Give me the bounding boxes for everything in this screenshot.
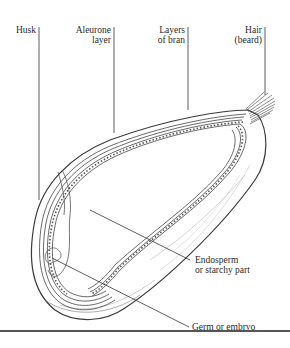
- germ-leader: [52, 258, 189, 327]
- aleurone-label-line-2: layer: [62, 35, 111, 45]
- aleurone-label-line-1: Aleurone: [62, 25, 111, 35]
- endosperm-leader: [90, 210, 190, 260]
- grain-outer-body: [32, 110, 266, 320]
- grain-illustration: [0, 0, 290, 348]
- endosperm-label-line-1: Endosperm: [195, 255, 250, 265]
- hair-label-line-2: (beard): [225, 35, 262, 45]
- husk-label-line-1: Husk: [4, 25, 36, 35]
- wheat-grain-diagram: Husk Aleurone layer Layers of bran Hair …: [0, 0, 290, 348]
- label-husk: Husk: [4, 25, 36, 35]
- label-hair-beard: Hair (beard): [225, 25, 262, 45]
- endosperm-label-line-2: or starchy part: [195, 265, 250, 275]
- bottom-divider: [0, 330, 290, 332]
- bran-label-line-2: of bran: [145, 35, 185, 45]
- label-aleurone-layer: Aleurone layer: [62, 25, 111, 45]
- label-layers-of-bran: Layers of bran: [145, 25, 185, 45]
- hair-label-line-1: Hair: [225, 25, 262, 35]
- label-endosperm: Endosperm or starchy part: [195, 255, 250, 275]
- bran-label-line-1: Layers: [145, 25, 185, 35]
